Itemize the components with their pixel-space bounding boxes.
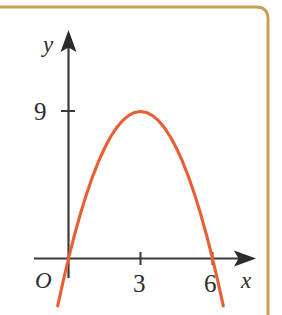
x-tick-label-6: 6 [204,270,217,297]
parabola-plot: y x O 9 3 6 [0,0,282,315]
x-axis-label: x [240,268,252,293]
y-tick-label-9: 9 [34,98,47,125]
x-tick-label-3: 3 [133,270,146,297]
y-axis-label: y [41,32,54,57]
figure-root: y x O 9 3 6 [0,0,282,315]
origin-label: O [35,268,52,293]
